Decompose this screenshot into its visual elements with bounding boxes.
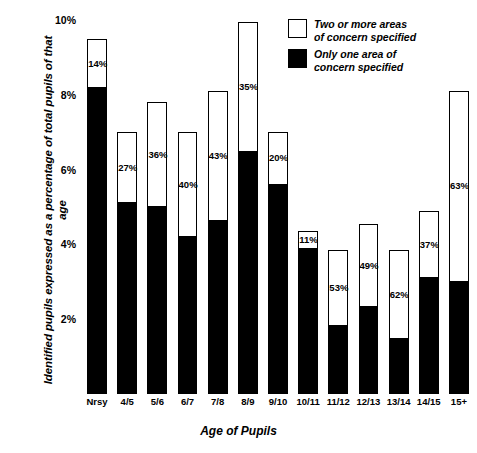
bar-value-label: 63% xyxy=(450,181,468,191)
legend-label-line: Two or more areas xyxy=(314,18,416,31)
bar-stack[interactable]: 63% xyxy=(449,91,469,394)
bar-segment-one-area xyxy=(390,338,408,393)
legend-label: Only one area ofconcern specified xyxy=(314,48,403,73)
bar-group: 43% xyxy=(208,20,228,394)
bar-segment-one-area xyxy=(148,206,166,393)
bar-stack[interactable]: 14% xyxy=(87,39,107,394)
legend-label-line: concern specified xyxy=(314,61,403,74)
legend-swatch-filled-icon xyxy=(288,49,307,68)
bar-stack[interactable]: 53% xyxy=(328,250,348,394)
y-axis-ticks: 2%4%6%8%10% xyxy=(38,0,76,453)
bar-value-label: 62% xyxy=(390,290,408,300)
chart-legend: Two or more areasof concern specifiedOnl… xyxy=(288,18,473,78)
x-axis-tick-label: 4/5 xyxy=(112,396,142,407)
bar-value-label: 40% xyxy=(179,180,197,190)
bar-value-label: 49% xyxy=(360,261,378,271)
bar-segment-one-area xyxy=(360,306,378,393)
bar-segment-one-area xyxy=(88,87,106,393)
bar-value-label: 20% xyxy=(269,153,287,163)
x-axis-tick-label: 14/15 xyxy=(414,396,444,407)
legend-swatch-empty-icon xyxy=(288,19,307,38)
x-axis-tick-label: 12/13 xyxy=(353,396,383,407)
bar-group: 35% xyxy=(238,20,258,394)
x-axis-title: Age of Pupils xyxy=(0,424,477,438)
bar-stack[interactable]: 27% xyxy=(117,132,137,394)
y-axis-tick-label: 6% xyxy=(42,165,76,175)
x-axis-ticks: Nrsy4/55/66/77/88/99/1010/1111/1212/1313… xyxy=(82,396,474,412)
x-axis-tick-label: 10/11 xyxy=(293,396,323,407)
stacked-bar-chart: Identified pupils expressed as a percent… xyxy=(0,0,477,453)
bar-stack[interactable]: 35% xyxy=(238,22,258,394)
bar-group: 40% xyxy=(178,20,198,394)
bar-stack[interactable]: 40% xyxy=(178,132,198,394)
bar-segment-one-area xyxy=(118,202,136,393)
legend-item: Two or more areasof concern specified xyxy=(288,18,473,43)
y-axis-tick-label: 2% xyxy=(42,314,76,324)
x-axis-tick-label: 7/8 xyxy=(203,396,233,407)
bar-value-label: 37% xyxy=(420,240,438,250)
x-axis-tick-label: 5/6 xyxy=(142,396,172,407)
bar-group: 20% xyxy=(268,20,288,394)
bar-stack[interactable]: 37% xyxy=(419,211,439,394)
bar-segment-one-area xyxy=(329,325,347,393)
bar-segment-one-area xyxy=(450,281,468,393)
bar-stack[interactable]: 11% xyxy=(298,231,318,394)
y-axis-tick-label: 10% xyxy=(42,15,76,25)
bar-segment-one-area xyxy=(179,236,197,393)
x-axis-tick-label: Nrsy xyxy=(82,396,112,407)
bar-value-label: 43% xyxy=(209,151,227,161)
bar-segment-one-area xyxy=(269,184,287,393)
bar-stack[interactable]: 43% xyxy=(208,91,228,394)
bar-stack[interactable]: 62% xyxy=(389,250,409,394)
x-axis-tick-label: 9/10 xyxy=(263,396,293,407)
bar-segment-one-area xyxy=(299,248,317,393)
legend-label: Two or more areasof concern specified xyxy=(314,18,416,43)
legend-label-line: Only one area of xyxy=(314,48,403,61)
bar-stack[interactable]: 49% xyxy=(359,224,379,394)
x-axis-tick-label: 6/7 xyxy=(172,396,202,407)
x-axis-tick-label: 11/12 xyxy=(323,396,353,407)
legend-label-line: of concern specified xyxy=(314,31,416,44)
bar-segment-one-area xyxy=(239,151,257,393)
bar-value-label: 36% xyxy=(148,150,166,160)
bar-stack[interactable]: 36% xyxy=(147,102,167,394)
bar-value-label: 27% xyxy=(118,163,136,173)
bar-group: 14% xyxy=(87,20,107,394)
bar-value-label: 14% xyxy=(88,59,106,69)
bar-value-label: 53% xyxy=(329,283,347,293)
y-axis-tick-label: 8% xyxy=(42,90,76,100)
bar-value-label: 35% xyxy=(239,82,257,92)
y-axis-tick-label: 4% xyxy=(42,239,76,249)
bar-group: 36% xyxy=(147,20,167,394)
bar-value-label: 11% xyxy=(299,235,317,245)
bar-group: 27% xyxy=(117,20,137,394)
bar-segment-one-area xyxy=(209,220,227,393)
bar-stack[interactable]: 20% xyxy=(268,132,288,394)
legend-item: Only one area ofconcern specified xyxy=(288,48,473,73)
x-axis-tick-label: 13/14 xyxy=(384,396,414,407)
bar-segment-one-area xyxy=(420,277,438,393)
x-axis-tick-label: 8/9 xyxy=(233,396,263,407)
x-axis-tick-label: 15+ xyxy=(444,396,474,407)
